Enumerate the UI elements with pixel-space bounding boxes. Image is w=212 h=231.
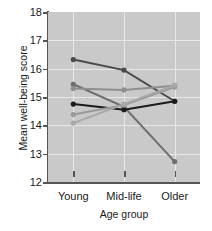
y-axis-tick-label: 13 [30, 148, 42, 160]
data-point-marker [71, 86, 76, 91]
x-axis-tick-label: Older [161, 190, 188, 202]
y-axis-tick-label: 18 [30, 6, 42, 18]
data-point-marker [172, 159, 177, 164]
data-point-marker [71, 120, 76, 125]
data-point-marker [121, 87, 126, 92]
x-axis-tick [124, 171, 126, 177]
data-point-marker [121, 101, 126, 106]
data-point-marker [172, 99, 177, 104]
data-series [71, 57, 178, 104]
series-line [73, 60, 174, 102]
data-point-marker [172, 83, 177, 88]
y-axis-tick [43, 182, 48, 184]
data-point-marker [121, 107, 126, 112]
line-chart: Mean well-being score 12131415161718 You… [0, 0, 212, 231]
y-axis-tick-label: 16 [30, 63, 42, 75]
y-axis-tick-label: 15 [30, 91, 42, 103]
x-axis-tick [73, 171, 75, 177]
data-point-marker [71, 112, 76, 117]
y-axis-tick-label: 14 [30, 119, 42, 131]
series-layer [48, 12, 200, 182]
data-point-marker [71, 101, 76, 106]
x-axis-tick-label: Mid-life [106, 190, 141, 202]
y-axis-title: Mean well-being score [17, 13, 29, 183]
y-axis-tick-label: 12 [30, 176, 42, 188]
y-axis-tick-label: 17 [30, 34, 42, 46]
x-axis-line [47, 182, 200, 184]
data-point-marker [71, 57, 76, 62]
plot-area: 12131415161718 [48, 12, 200, 182]
x-axis-tick-label: Young [58, 190, 89, 202]
x-axis-tick [175, 171, 177, 177]
data-point-marker [121, 67, 126, 72]
series-line [73, 84, 174, 161]
x-axis-title: Age group [48, 208, 200, 220]
